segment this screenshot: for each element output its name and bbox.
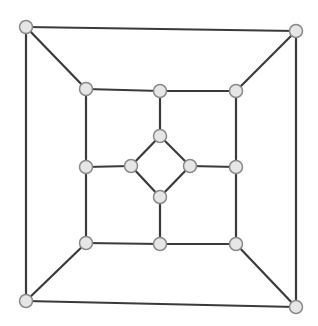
node-i3 <box>154 191 167 204</box>
node-m5 <box>230 238 243 251</box>
edge-o3-m5 <box>236 244 296 307</box>
node-m3 <box>230 85 243 98</box>
node-m4 <box>230 161 243 174</box>
edge-m1-m2 <box>86 89 160 91</box>
node-o4 <box>20 295 33 308</box>
node-i2 <box>184 160 197 173</box>
edge-o1-m1 <box>26 27 86 89</box>
node-i4 <box>125 160 138 173</box>
node-m6 <box>154 238 167 251</box>
node-m2 <box>154 85 167 98</box>
graph-diagram <box>0 0 318 326</box>
node-i1 <box>154 130 167 143</box>
edge-o4-m7 <box>26 243 86 301</box>
node-o1 <box>20 21 33 34</box>
node-m1 <box>80 83 93 96</box>
node-m7 <box>80 237 93 250</box>
edge-o2-m3 <box>236 31 296 91</box>
edges <box>26 27 296 307</box>
node-m8 <box>80 161 93 174</box>
node-o2 <box>290 25 303 38</box>
edge-o3-o4 <box>26 301 296 307</box>
edge-o1-o2 <box>26 27 296 31</box>
edge-m6-m7 <box>86 243 160 244</box>
node-o3 <box>290 301 303 314</box>
